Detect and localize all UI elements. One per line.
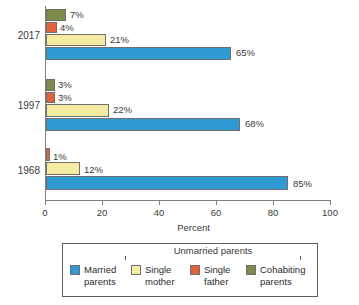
legend-swatch-single-mother-icon <box>131 265 141 275</box>
x-tick-mark-20 <box>102 200 103 205</box>
x-tick-label-60: 60 <box>211 207 222 218</box>
x-tick-mark-100 <box>330 200 331 205</box>
bar-1997-single-mother <box>46 104 109 117</box>
legend-label-married-parents: Married parents <box>84 264 116 287</box>
bar-value-1968-single-mother: 12% <box>84 164 103 175</box>
chart-figure: 0 20 40 60 80 100 Percent Years 2017 199… <box>0 0 359 305</box>
bar-1997-single-father <box>46 92 55 103</box>
x-tick-mark-60 <box>216 200 217 205</box>
bar-value-2017-single-father: 4% <box>60 22 74 33</box>
legend-swatch-single-father-icon <box>190 265 200 275</box>
bar-1968-single-mother <box>46 162 80 175</box>
x-tick-label-40: 40 <box>154 207 165 218</box>
y-group-label-2017: 2017 <box>0 30 40 41</box>
bar-1997-married <box>46 118 240 131</box>
bar-2017-cohabiting <box>46 9 66 21</box>
y-group-label-1997: 1997 <box>0 100 40 111</box>
x-tick-mark-0 <box>45 200 46 205</box>
legend-item-single-mother[interactable]: Single mother <box>131 264 175 287</box>
legend-item-single-father[interactable]: Single father <box>190 264 230 287</box>
legend-label-single-father: Single father <box>204 264 230 287</box>
bar-1968-single-father <box>46 148 50 161</box>
x-axis-line <box>45 200 331 201</box>
x-tick-label-20: 20 <box>97 207 108 218</box>
legend-label-cohabiting-parents: Cohabiting parents <box>260 264 305 287</box>
x-axis-title-text: Percent <box>149 222 210 233</box>
x-axis-title: Percent <box>0 222 359 233</box>
x-tick-label-100: 100 <box>322 207 338 218</box>
legend-swatch-cohabiting-parents-icon <box>246 265 256 275</box>
bar-value-1997-married: 68% <box>245 118 264 129</box>
x-tick-mark-80 <box>273 200 274 205</box>
y-group-label-1968: 1968 <box>0 165 40 176</box>
bar-value-1968-single-father: 1% <box>53 151 67 162</box>
bar-value-1997-single-father: 3% <box>58 92 72 103</box>
legend-label-single-mother: Single mother <box>145 264 175 287</box>
bar-2017-single-father <box>46 22 57 33</box>
bar-value-1968-married: 85% <box>293 178 312 189</box>
bar-value-1997-single-mother: 22% <box>113 104 132 115</box>
legend-item-cohabiting-parents[interactable]: Cohabiting parents <box>246 264 305 287</box>
legend-item-married-parents[interactable]: Married parents <box>70 264 116 287</box>
x-tick-label-0: 0 <box>42 207 47 218</box>
legend-swatch-married-parents-icon <box>70 265 80 275</box>
bar-value-2017-single-mother: 21% <box>110 34 129 45</box>
bar-value-1997-cohabiting: 3% <box>58 79 72 90</box>
bar-2017-single-mother <box>46 34 106 46</box>
x-tick-label-80: 80 <box>268 207 279 218</box>
bar-value-2017-married: 65% <box>236 47 255 58</box>
unmarried-parents-label: Unmarried parents <box>125 245 301 256</box>
bar-value-2017-cohabiting: 7% <box>70 9 84 20</box>
bar-1997-cohabiting <box>46 79 55 91</box>
bar-2017-married <box>46 47 231 60</box>
x-tick-mark-40 <box>159 200 160 205</box>
unmarried-parents-label-text: Unmarried parents <box>170 245 257 256</box>
bar-1968-married <box>46 176 288 190</box>
